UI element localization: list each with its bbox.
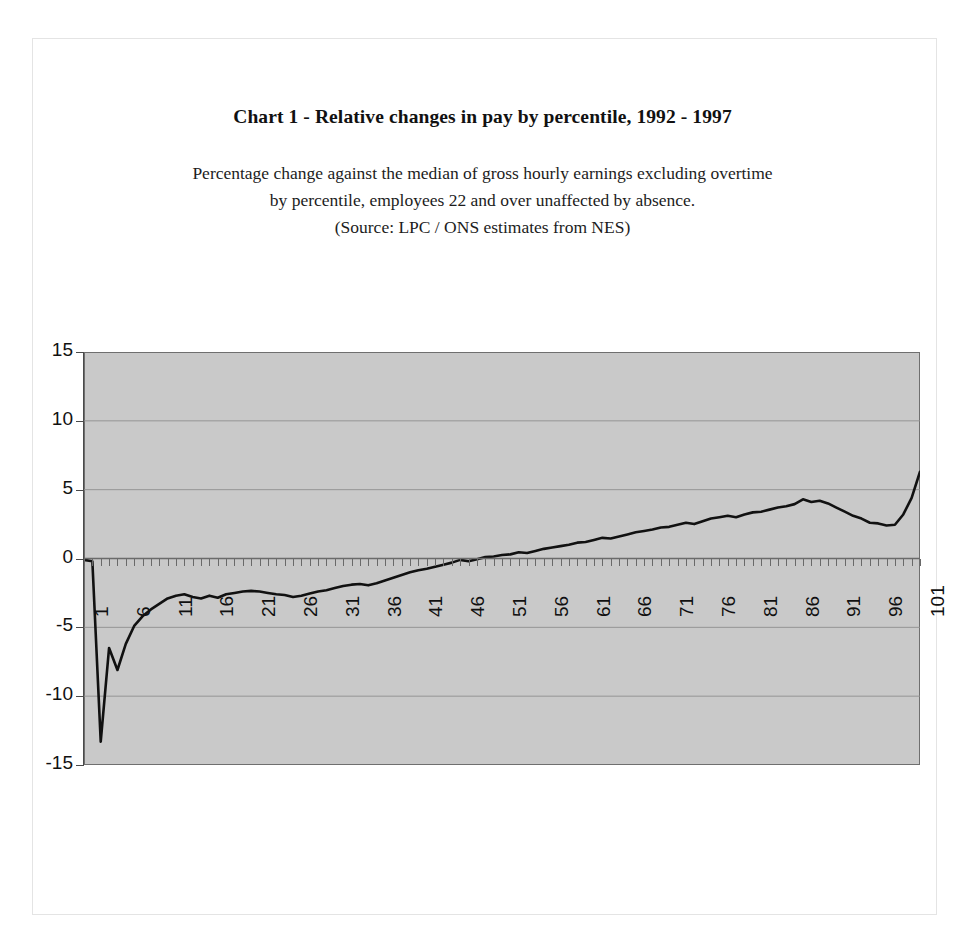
page-root: Chart 1 - Relative changes in pay by per… (0, 0, 965, 944)
x-tick-mark-2 (92, 559, 93, 566)
x-tick-mark-29 (318, 559, 319, 566)
x-tick-mark-60 (577, 559, 578, 566)
x-tick-mark-83 (770, 559, 771, 566)
x-tick-mark-77 (719, 559, 720, 566)
x-tick-mark-1 (84, 559, 85, 566)
x-tick-mark-89 (820, 559, 821, 566)
x-tick-mark-16 (209, 559, 210, 566)
x-tick-mark-5 (117, 559, 118, 566)
x-tick-mark-52 (510, 559, 511, 566)
x-tick-label-56: 56 (551, 595, 573, 616)
x-tick-mark-95 (870, 559, 871, 566)
x-tick-mark-10 (159, 559, 160, 566)
x-tick-mark-73 (686, 559, 687, 566)
chart-figure: Chart 1 - Relative changes in pay by per… (0, 0, 965, 944)
x-tick-mark-39 (402, 559, 403, 566)
x-tick-mark-74 (694, 559, 695, 566)
x-tick-label-76: 76 (718, 595, 740, 616)
x-tick-label-86: 86 (802, 595, 824, 616)
x-tick-mark-17 (218, 559, 219, 566)
x-tick-label-46: 46 (467, 595, 489, 616)
x-tick-mark-19 (234, 559, 235, 566)
x-tick-mark-70 (661, 559, 662, 566)
y-tick-label--10: -10 (11, 683, 73, 705)
x-tick-mark-13 (184, 559, 185, 566)
x-tick-mark-24 (276, 559, 277, 566)
x-tick-mark-3 (101, 559, 102, 566)
x-tick-mark-6 (126, 559, 127, 566)
x-tick-mark-28 (310, 559, 311, 566)
x-tick-mark-51 (502, 559, 503, 566)
x-tick-mark-100 (912, 559, 913, 566)
x-tick-mark-46 (460, 559, 461, 566)
x-tick-mark-81 (753, 559, 754, 566)
x-tick-mark-32 (343, 559, 344, 566)
x-tick-mark-42 (427, 559, 428, 566)
x-tick-mark-58 (561, 559, 562, 566)
x-tick-mark-7 (134, 559, 135, 566)
x-tick-mark-59 (569, 559, 570, 566)
x-tick-label-81: 81 (760, 595, 782, 616)
chart-subtitle-line-1: Percentage change against the median of … (0, 160, 965, 187)
y-tick-mark--15 (76, 765, 84, 766)
x-tick-mark-35 (368, 559, 369, 566)
y-tick-mark--5 (76, 627, 84, 628)
x-tick-label-6: 6 (133, 606, 155, 617)
y-tick-label-10: 10 (11, 408, 73, 430)
x-tick-mark-63 (602, 559, 603, 566)
x-tick-mark-99 (903, 559, 904, 566)
x-tick-mark-68 (644, 559, 645, 566)
x-tick-mark-93 (853, 559, 854, 566)
x-tick-label-21: 21 (258, 595, 280, 616)
x-tick-label-1: 1 (91, 606, 113, 617)
x-tick-mark-71 (669, 559, 670, 566)
x-tick-mark-97 (887, 559, 888, 566)
x-tick-mark-43 (435, 559, 436, 566)
x-tick-mark-67 (636, 559, 637, 566)
x-tick-mark-53 (519, 559, 520, 566)
y-tick-mark-5 (76, 490, 84, 491)
x-tick-mark-41 (418, 559, 419, 566)
data-series (84, 472, 920, 742)
y-tick-mark-10 (76, 421, 84, 422)
x-tick-mark-11 (168, 559, 169, 566)
x-tick-mark-37 (385, 559, 386, 566)
x-tick-mark-96 (878, 559, 879, 566)
x-tick-mark-36 (377, 559, 378, 566)
y-tick-label-15: 15 (11, 339, 73, 361)
x-tick-label-41: 41 (425, 595, 447, 616)
x-tick-label-91: 91 (843, 595, 865, 616)
x-tick-mark-72 (678, 559, 679, 566)
x-tick-mark-33 (352, 559, 353, 566)
y-tick-label-0: 0 (11, 546, 73, 568)
x-tick-mark-27 (301, 559, 302, 566)
x-tick-mark-9 (151, 559, 152, 566)
x-tick-mark-44 (443, 559, 444, 566)
x-tick-mark-75 (703, 559, 704, 566)
x-tick-mark-47 (469, 559, 470, 566)
x-tick-mark-56 (544, 559, 545, 566)
x-tick-mark-45 (452, 559, 453, 566)
x-tick-mark-65 (619, 559, 620, 566)
x-tick-mark-62 (594, 559, 595, 566)
x-tick-mark-21 (251, 559, 252, 566)
x-tick-mark-76 (711, 559, 712, 566)
x-tick-mark-79 (736, 559, 737, 566)
x-tick-mark-14 (193, 559, 194, 566)
x-tick-mark-50 (494, 559, 495, 566)
x-tick-mark-69 (652, 559, 653, 566)
x-tick-mark-8 (143, 559, 144, 566)
x-tick-mark-26 (293, 559, 294, 566)
x-tick-mark-4 (109, 559, 110, 566)
x-tick-mark-48 (477, 559, 478, 566)
x-tick-mark-38 (393, 559, 394, 566)
x-tick-mark-18 (226, 559, 227, 566)
y-tick-mark--10 (76, 696, 84, 697)
x-tick-mark-55 (535, 559, 536, 566)
x-tick-label-31: 31 (342, 595, 364, 616)
y-tick-mark-15 (76, 352, 84, 353)
x-tick-mark-84 (778, 559, 779, 566)
x-tick-label-16: 16 (216, 595, 238, 616)
x-tick-mark-34 (360, 559, 361, 566)
x-tick-mark-91 (836, 559, 837, 566)
